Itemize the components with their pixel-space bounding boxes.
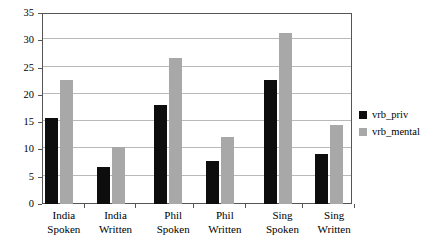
x-axis-label-line1: India [84, 209, 148, 223]
y-axis-tick-label: 25 [24, 62, 35, 73]
legend-item[interactable]: vrb_priv [359, 110, 435, 121]
x-axis-label-line2: Written [302, 223, 366, 237]
x-axis-group-label: SingWritten [302, 209, 366, 237]
bar-vrb_priv[interactable] [206, 161, 219, 204]
bar-vrb_mental[interactable] [330, 125, 343, 204]
legend-item[interactable]: vrb_mental [359, 127, 435, 138]
bar-group [199, 13, 251, 204]
legend-swatch-vrb_mental [359, 128, 367, 136]
bar-chart: 05101520253035 IndiaSpokenIndiaWrittenPh… [0, 0, 435, 250]
bar-vrb_mental[interactable] [279, 33, 292, 204]
x-axis-group-label: PhilWritten [193, 209, 257, 237]
legend-label: vrb_mental [372, 127, 420, 138]
y-axis-tick-label: 5 [29, 171, 34, 182]
y-axis-tick-label: 0 [29, 199, 34, 210]
bar-vrb_priv[interactable] [154, 105, 167, 204]
x-axis-label-line2: Written [84, 223, 148, 237]
chart-legend: vrb_privvrb_mental [359, 110, 435, 143]
x-axis-tick-mark [193, 204, 194, 208]
bar-vrb_priv[interactable] [315, 154, 328, 204]
x-axis-group-label: IndiaWritten [84, 209, 148, 237]
bar-vrb_mental[interactable] [112, 147, 125, 204]
bar-group [38, 13, 90, 204]
bar-vrb_priv[interactable] [97, 167, 110, 204]
x-axis-tick-mark [245, 204, 246, 208]
bar-group [90, 13, 142, 204]
legend-label: vrb_priv [372, 110, 408, 121]
y-axis-tick-label: 10 [24, 144, 35, 155]
bar-vrb_priv[interactable] [264, 80, 277, 204]
x-axis-tick-mark [84, 204, 85, 208]
y-axis-tick-label: 15 [24, 117, 35, 128]
bar-vrb_priv[interactable] [45, 118, 58, 204]
bar-vrb_mental[interactable] [60, 80, 73, 204]
legend-swatch-vrb_priv [359, 111, 367, 119]
y-axis-tick-label: 20 [24, 90, 35, 101]
x-axis-label-line1: Sing [302, 209, 366, 223]
x-axis-label-line2: Written [193, 223, 257, 237]
x-axis-tick-mark [302, 204, 303, 208]
bar-group [147, 13, 199, 204]
bar-group [257, 13, 309, 204]
x-axis-label-line1: Phil [193, 209, 257, 223]
bar-group [308, 13, 360, 204]
bar-vrb_mental[interactable] [169, 58, 182, 204]
y-axis-tick-label: 35 [24, 8, 35, 19]
y-axis: 05101520253035 [0, 0, 42, 210]
bar-vrb_mental[interactable] [221, 137, 234, 204]
x-axis-labels: IndiaSpokenIndiaWrittenPhilSpokenPhilWri… [42, 209, 352, 249]
x-axis-tick-mark [354, 204, 355, 208]
bars-layer [42, 13, 352, 204]
x-axis-tick-mark [135, 204, 136, 208]
y-axis-tick-label: 30 [24, 35, 35, 46]
